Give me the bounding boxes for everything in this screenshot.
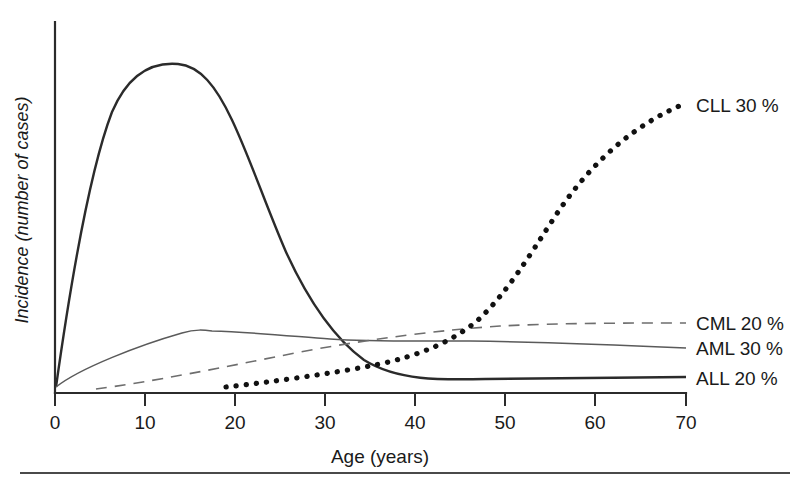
x-tick-label-0: 0 bbox=[50, 412, 61, 433]
x-tick-label-50: 50 bbox=[494, 412, 515, 433]
x-axis-ticks bbox=[55, 393, 686, 406]
x-tick-label-20: 20 bbox=[224, 412, 245, 433]
series-label-all: ALL 20 % bbox=[696, 368, 778, 389]
y-axis-title: Incidence (number of cases) bbox=[12, 96, 32, 323]
x-tick-label-70: 70 bbox=[675, 412, 696, 433]
x-tick-label-30: 30 bbox=[314, 412, 335, 433]
x-tick-label-60: 60 bbox=[584, 412, 605, 433]
incidence-by-age-chart: 0 10 20 30 40 50 60 70 Age (years) Incid… bbox=[0, 0, 808, 485]
figure-container: 0 10 20 30 40 50 60 70 Age (years) Incid… bbox=[0, 0, 808, 485]
series-label-aml: AML 30 % bbox=[696, 338, 783, 359]
series-label-cml: CML 20 % bbox=[696, 313, 784, 334]
x-tick-label-40: 40 bbox=[404, 412, 425, 433]
x-axis-tick-labels: 0 10 20 30 40 50 60 70 bbox=[50, 412, 697, 433]
series-label-cll: CLL 30 % bbox=[696, 95, 779, 116]
x-tick-label-10: 10 bbox=[134, 412, 155, 433]
x-axis-title: Age (years) bbox=[331, 446, 429, 467]
series-curve-all bbox=[56, 64, 686, 387]
